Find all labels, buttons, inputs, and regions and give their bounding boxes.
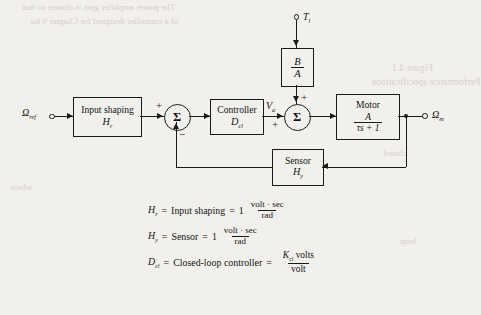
arrowhead-into-gain-block <box>293 40 299 46</box>
motor-output-label: Ωm <box>432 109 444 122</box>
motor-denominator: τs + 1 <box>354 122 383 133</box>
disturbance-summer-plus-top: + <box>301 92 307 103</box>
eq2-units: volt · sec rad <box>221 226 260 246</box>
eq1-lhs: Hr <box>148 204 158 217</box>
eq2-equals-2: = <box>198 231 212 242</box>
eq2-description: Sensor <box>171 231 198 242</box>
block-input-shaping-title: Input shaping <box>81 105 134 116</box>
arrowhead-into-error-summer <box>157 113 163 119</box>
eq3-description: Closed-loop controller <box>173 257 262 268</box>
eq3-denominator: volt <box>288 263 309 274</box>
wire-sensor-to-errorsummer <box>176 167 272 168</box>
equation-sensor: Hy = Sensor = 1 volt · sec rad <box>148 223 317 249</box>
eq1-units: volt · sec rad <box>248 200 287 220</box>
block-input-shaping[interactable]: Input shaping Hr <box>73 97 142 137</box>
disturbance-gain-numerator: B <box>291 56 303 67</box>
wire-motor-output <box>398 116 422 117</box>
eq1-equals-2: = <box>225 205 239 216</box>
disturbance-summer-plus-left: + <box>272 119 278 130</box>
block-controller[interactable]: Controller Dcl <box>210 99 264 135</box>
error-summer-plus-sign: + <box>156 100 162 111</box>
reference-input-terminal <box>49 114 55 120</box>
eq3-equals-2: = <box>262 257 276 268</box>
block-controller-symbol: Dcl <box>231 116 243 129</box>
block-motor-title: Motor <box>356 100 380 111</box>
block-disturbance-gain[interactable]: B A <box>281 48 314 87</box>
block-motor[interactable]: Motor A τs + 1 <box>336 94 400 140</box>
disturbance-gain-fraction: B A <box>291 56 303 80</box>
equation-list: Hr = Input shaping = 1 volt · sec rad Hy… <box>148 197 317 275</box>
eq3-lhs: Dcl <box>148 256 160 269</box>
block-sensor-symbol: Hy <box>293 166 303 179</box>
eq1-units-denominator: rad <box>258 210 276 221</box>
load-torque-label: Tl <box>303 11 310 24</box>
eq1-description: Input shaping <box>171 205 225 216</box>
disturbance-summer-glyph: Σ <box>293 110 301 125</box>
motor-transfer-function: A τs + 1 <box>354 112 383 133</box>
eq3-equals-1: = <box>160 257 174 268</box>
eq1-equals-1: = <box>158 205 172 216</box>
error-summer-minus-sign: − <box>179 129 185 140</box>
eq1-units-numerator: volt · sec <box>248 200 287 210</box>
eq2-units-numerator: volt · sec <box>221 226 260 236</box>
eq3-gain-fraction: Kcl volts volt <box>280 250 317 273</box>
eq2-value: 1 <box>212 231 217 242</box>
wire-feedback-down <box>406 116 407 167</box>
wire-feedback-to-sensor <box>322 167 406 168</box>
motor-numerator: A <box>362 112 374 122</box>
block-sensor-title: Sensor <box>285 156 311 167</box>
reference-input-label: Ωref <box>22 107 36 120</box>
eq2-lhs: Hy <box>148 230 158 243</box>
block-controller-title: Controller <box>217 105 256 116</box>
motor-output-terminal <box>422 113 428 119</box>
wire-feedback-up <box>176 122 177 167</box>
eq2-units-denominator: rad <box>232 236 250 247</box>
eq3-numerator: Kcl volts <box>280 250 317 262</box>
block-input-shaping-symbol: Hr <box>103 116 113 129</box>
eq1-value: 1 <box>239 205 244 216</box>
eq2-equals-1: = <box>158 231 172 242</box>
arrowhead-disturbance-into-summer <box>293 96 299 102</box>
disturbance-summing-junction[interactable]: Σ <box>284 104 311 131</box>
disturbance-gain-denominator: A <box>291 67 303 79</box>
equation-input-shaping: Hr = Input shaping = 1 volt · sec rad <box>148 197 317 223</box>
signal-va-label: Va <box>266 100 275 113</box>
block-sensor[interactable]: Sensor Hy <box>272 149 324 186</box>
equation-controller: Dcl = Closed-loop controller = Kcl volts… <box>148 249 317 275</box>
